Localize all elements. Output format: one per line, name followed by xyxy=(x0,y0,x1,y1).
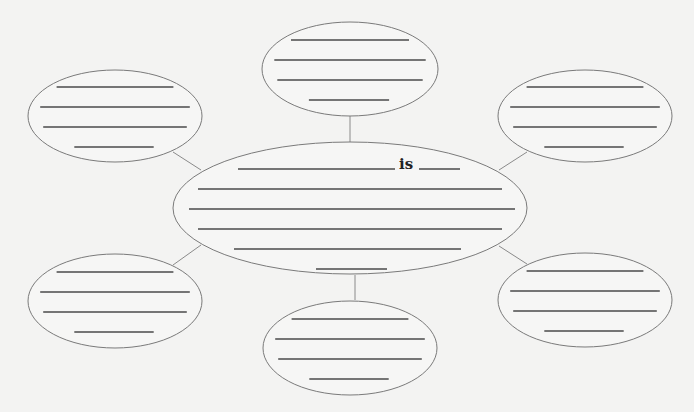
central-ellipse xyxy=(173,142,527,274)
satellite-top-right xyxy=(498,70,672,162)
satellite-bottom-left xyxy=(28,254,202,348)
satellite-bottom-right xyxy=(498,253,672,347)
central-ellipse-shape xyxy=(173,142,527,274)
word-web-diagram xyxy=(0,0,694,412)
satellite-ellipse-top-left xyxy=(28,70,202,162)
satellite-bottom xyxy=(263,301,437,395)
satellite-top xyxy=(262,22,438,116)
connector-bottom-right xyxy=(499,246,527,264)
center-is-label: is xyxy=(399,157,413,172)
connector-bottom-left xyxy=(173,245,201,265)
satellite-ellipse-bottom-left xyxy=(28,254,202,348)
satellite-ellipse-top-right xyxy=(498,70,672,162)
connector-top-right xyxy=(499,152,527,170)
satellite-ellipse-bottom xyxy=(263,301,437,395)
satellite-top-left xyxy=(28,70,202,162)
satellite-ellipse-top xyxy=(262,22,438,116)
satellite-ellipse-bottom-right xyxy=(498,253,672,347)
connector-top-left xyxy=(173,152,201,170)
